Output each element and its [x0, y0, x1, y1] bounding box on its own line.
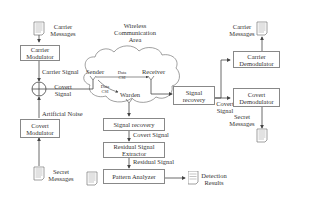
data-csi-label-2: Data CSI — [100, 84, 110, 94]
carrier-messages-label: Carrier Messages — [50, 23, 76, 37]
receiver-carrier-messages-label: Carrier Messages — [229, 23, 255, 37]
warden-label: Warden — [120, 91, 140, 98]
covert-modulator-label: Covert Modulator — [23, 122, 57, 136]
secret-messages-label: Secret Messages — [48, 168, 74, 182]
receiver-signal-recovery-box: Signal recovery — [173, 86, 215, 105]
data-csi-label-1: Data CSI — [117, 70, 127, 80]
pattern-analyzer-label: Pattern Analyzer — [112, 173, 156, 180]
detection-results-icon — [188, 171, 200, 186]
receiver-signal-recovery-label: Signal recovery — [179, 89, 209, 103]
carrier-demodulator-box: Carrier Demodulator — [233, 51, 280, 68]
receiver-secret-messages-label: Secret Messages — [228, 113, 256, 127]
detection-results-label: Detection Results — [200, 172, 228, 186]
carrier-signal-label: Carrier Signal — [42, 68, 79, 75]
wireless-area-title: Wireless Communication Area — [110, 22, 160, 43]
carrier-modulator-label: Carrier Modulator — [23, 46, 57, 60]
covert-demodulator-box: Covert Demodulator — [233, 88, 280, 107]
residual-signal-extractor-label: Residual Signal Extractor — [106, 143, 162, 157]
covert-signal-label: Covert Signal — [50, 83, 76, 97]
covert-demodulator-label: Covert Demodulator — [235, 91, 279, 105]
carrier-demodulator-label: Carrier Demodulator — [235, 53, 279, 67]
sender-label: Sender — [86, 68, 104, 75]
carrier-messages-text: Carrier Messages — [50, 23, 76, 37]
artificial-noise-label: Artificial Noise — [42, 110, 83, 117]
residual-signal-label: Residual Signal — [133, 158, 174, 165]
warden-signal-recovery-label: Signal recovery — [114, 121, 155, 128]
covert-modulator-box: Covert Modulator — [20, 119, 60, 138]
carrier-modulator-box: Carrier Modulator — [20, 45, 60, 61]
receiver-label: Receiver — [142, 68, 165, 75]
residual-signal-extractor-box: Residual Signal Extractor — [103, 142, 165, 158]
warden-signal-recovery-box: Signal recovery — [103, 118, 165, 131]
warden-covert-signal-label: Covert Signal — [133, 131, 169, 138]
pattern-analyzer-box: Pattern Analyzer — [103, 169, 165, 184]
